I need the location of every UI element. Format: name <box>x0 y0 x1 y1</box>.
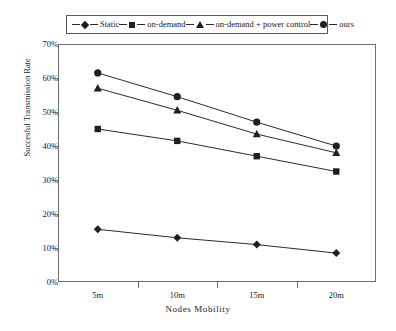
x-axis-tick-label: 10m <box>152 291 202 300</box>
legend-item-static[interactable]: Static <box>72 20 119 29</box>
circle-data-point-marker <box>174 93 181 100</box>
circle-data-point-marker <box>253 119 260 126</box>
legend-item-on-demand-power-control[interactable]: on-demand + power control <box>186 20 311 29</box>
series-line <box>98 229 337 253</box>
series-ours <box>94 69 340 149</box>
circle-data-point-marker <box>94 69 101 76</box>
x-axis-tick-mark <box>217 282 218 288</box>
plot-series-canvas <box>58 44 376 282</box>
chart-figure: Static on-demand on-demand + power contr… <box>0 0 396 331</box>
y-axis-tick-label: 70% <box>18 40 58 49</box>
series-on-demand <box>95 126 340 175</box>
chart-legend: Static on-demand on-demand + power contr… <box>66 15 328 34</box>
legend-line <box>186 24 194 25</box>
diamond-marker-icon <box>81 20 89 28</box>
x-axis-tick-label: 20m <box>311 291 361 300</box>
triangle-marker-icon <box>196 21 204 28</box>
circle-data-point-marker <box>333 142 340 149</box>
legend-label-static: Static <box>100 20 119 29</box>
triangle-data-point-marker <box>94 84 102 91</box>
legend-line <box>119 24 127 25</box>
legend-line <box>72 24 80 25</box>
x-axis-tick-mark <box>138 282 139 288</box>
diamond-data-point-marker <box>173 234 181 242</box>
x-axis-tick-label: 5m <box>73 291 123 300</box>
square-data-point-marker <box>254 153 260 159</box>
series-line <box>98 73 337 146</box>
legend-line <box>329 24 337 25</box>
legend-label-on-demand-power-control: on-demand + power control <box>216 20 311 29</box>
legend-line <box>137 24 145 25</box>
series-on-demand-power-control <box>94 84 341 156</box>
y-axis-tick-label: 0% <box>18 278 58 287</box>
square-data-point-marker <box>174 138 180 144</box>
legend-item-on-demand[interactable]: on-demand <box>119 20 185 29</box>
legend-label-ours: ours <box>339 20 354 29</box>
legend-line <box>310 24 318 25</box>
legend-item-ours[interactable]: ours <box>310 20 354 29</box>
series-static <box>94 225 341 257</box>
square-data-point-marker <box>333 168 339 174</box>
square-marker-icon <box>129 22 135 28</box>
legend-line <box>206 24 214 25</box>
x-axis-tick-label: 15m <box>232 291 282 300</box>
x-axis-title: Nodes Mobility <box>0 304 396 314</box>
diamond-data-point-marker <box>253 241 261 249</box>
legend-line <box>90 24 98 25</box>
series-line <box>98 88 337 153</box>
circle-marker-icon <box>320 21 327 28</box>
square-data-point-marker <box>95 126 101 132</box>
diamond-data-point-marker <box>332 249 340 257</box>
diamond-data-point-marker <box>94 225 102 233</box>
legend-label-on-demand: on-demand <box>147 20 185 29</box>
x-axis-tick-mark <box>297 282 298 288</box>
